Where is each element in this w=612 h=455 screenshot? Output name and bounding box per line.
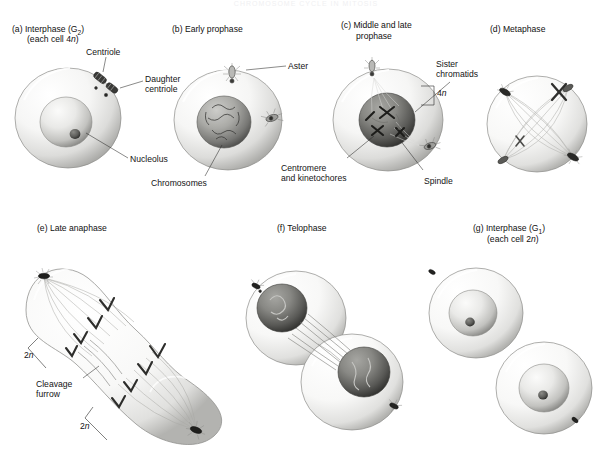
panel-d-tag: (d) bbox=[490, 24, 501, 34]
label-2n-lower-n: n bbox=[85, 421, 90, 431]
panel-b-title: (b) Early prophase bbox=[172, 24, 243, 35]
panel-a-tag: (a) bbox=[12, 24, 23, 34]
label-centriole: Centriole bbox=[86, 47, 120, 57]
panel-g-ploidy-pre: (each cell 2 bbox=[487, 234, 531, 244]
cell-a-interphase-g2 bbox=[15, 57, 143, 168]
label-cleavage-furrow-line1: Cleavage bbox=[36, 379, 72, 389]
label-daughter-centriole-line2: centriole bbox=[145, 84, 177, 94]
label-spindle: Spindle bbox=[424, 176, 453, 186]
cell-c-middle-late-prophase bbox=[333, 57, 450, 171]
panel-f-title: (f) Telophase bbox=[277, 223, 327, 234]
panel-a-ploidy-post: ) bbox=[76, 34, 79, 44]
panel-g-subtitle: (each cell 2n) bbox=[487, 234, 539, 245]
panel-c-tag: (c) bbox=[341, 20, 351, 30]
label-2n-upper-n: n bbox=[29, 350, 34, 360]
label-4n-n: n bbox=[442, 88, 447, 98]
panel-f-tag: (f) bbox=[277, 223, 285, 233]
panel-g-paren: ) bbox=[542, 223, 545, 233]
panel-g-title-text: Interphase (G bbox=[486, 223, 539, 233]
label-2n-lower: 2n bbox=[80, 421, 90, 431]
panel-b-tag: (b) bbox=[172, 24, 183, 34]
label-cleavage-furrow-line2: furrow bbox=[36, 389, 60, 399]
panel-a-ploidy-pre: (each cell 4 bbox=[27, 34, 71, 44]
label-sister-chromatids-line2: chromatids bbox=[436, 69, 478, 79]
panel-d-title-text: Metaphase bbox=[503, 24, 546, 34]
panel-d-title: (d) Metaphase bbox=[490, 24, 545, 35]
mitosis-figure: CHROMOSOME CYCLE IN MITOSIS bbox=[0, 0, 612, 455]
label-centromere-line2: and kinetochores bbox=[281, 173, 346, 183]
panel-a-title-text: Interphase (G bbox=[25, 24, 78, 34]
panel-g-ploidy-post: ) bbox=[536, 234, 539, 244]
panel-e-tag: (e) bbox=[37, 223, 48, 233]
label-chromosomes: Chromosomes bbox=[151, 178, 207, 188]
panel-e-title-text: Late anaphase bbox=[50, 223, 107, 233]
label-aster: Aster bbox=[288, 61, 308, 71]
panel-f-title-text: Telophase bbox=[287, 223, 326, 233]
cell-d-metaphase bbox=[487, 76, 587, 172]
label-daughter-centriole-line1: Daughter bbox=[145, 74, 180, 84]
label-4n: 4n bbox=[437, 88, 447, 98]
panel-c-title-text: Middle and late bbox=[353, 20, 411, 30]
panel-c-title-line2: prophase bbox=[356, 31, 392, 42]
panel-e-title: (e) Late anaphase bbox=[37, 223, 107, 234]
cell-f-telophase bbox=[246, 271, 403, 430]
label-centromere-line1: Centromere bbox=[281, 163, 326, 173]
panel-g-tag: (g) bbox=[473, 223, 484, 233]
cell-b-early-prophase bbox=[174, 63, 286, 176]
cell-g-interphase-g1 bbox=[428, 268, 592, 434]
panel-a-paren: ) bbox=[81, 24, 84, 34]
panel-c-title: (c) Middle and late bbox=[341, 20, 412, 31]
panel-b-title-text: Early prophase bbox=[185, 24, 243, 34]
label-nucleolus: Nucleolus bbox=[130, 154, 168, 164]
label-sister-chromatids-line1: Sister bbox=[436, 59, 458, 69]
panel-a-subtitle: (each cell 4n) bbox=[27, 34, 79, 45]
cell-e-late-anaphase bbox=[26, 268, 222, 445]
label-2n-upper: 2n bbox=[24, 350, 34, 360]
